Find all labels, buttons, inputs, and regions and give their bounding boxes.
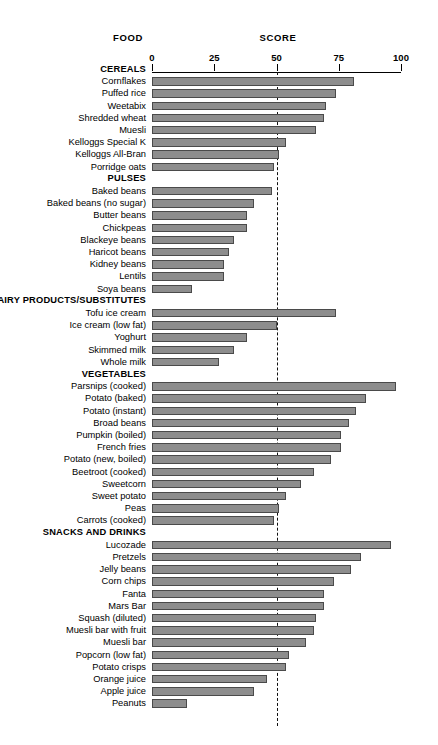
bar-label: Muesli [119,125,146,135]
chart-row: Muesli [0,125,438,137]
category-header-row: PULSES [0,173,438,185]
bar [152,480,301,488]
chart-row: Potato (new, boiled) [0,454,438,466]
bar [152,150,279,158]
bar-label: Apple juice [101,686,146,696]
bar [152,663,286,671]
bar [152,224,247,232]
bar [152,614,316,622]
chart-row: Peanuts [0,698,438,710]
chart-row: French fries [0,442,438,454]
bar [152,419,349,427]
bar-label: Corn chips [102,576,146,586]
bar-label: Kelloggs Special K [68,137,146,147]
bar-label: Beetroot (cooked) [72,467,146,477]
x-tick-label-50: 50 [262,52,292,63]
chart-row: Muesli bar with fruit [0,625,438,637]
chart-row: Broad beans [0,417,438,429]
bar [152,638,306,646]
bar-label: Potato (baked) [85,393,146,403]
chart-row: Apple juice [0,686,438,698]
bar [152,138,286,146]
chart-row: Whole milk [0,356,438,368]
bar [152,455,331,463]
bar [152,260,224,268]
bar-label: French fries [97,442,146,452]
chart-row: Blackeye beans [0,234,438,246]
chart-row: Shredded wheat [0,112,438,124]
bar [152,407,356,415]
chart-row: Fanta [0,588,438,600]
bar-label: Popcorn (low fat) [76,650,146,660]
chart-row: Potato (instant) [0,405,438,417]
bar [152,102,326,110]
chart-row: Weetabix [0,100,438,112]
bar [152,516,274,524]
bar [152,553,361,561]
chart-row: Cornflakes [0,76,438,88]
bar [152,590,324,598]
bar [152,492,286,500]
bar [152,626,314,634]
bar [152,394,366,402]
bar-label: Chickpeas [103,223,146,233]
chart-row: Jelly beans [0,564,438,576]
bar-label: Weetabix [107,101,146,111]
bar [152,309,336,317]
bar-label: Kelloggs All-Bran [75,149,146,159]
bar [152,699,187,707]
bar [152,89,336,97]
chart-row: Carrots (cooked) [0,515,438,527]
chart-row: Porridge oats [0,161,438,173]
chart-row: Pumpkin (boiled) [0,430,438,442]
bar [152,577,334,585]
bar-label: Muesli bar [103,637,146,647]
category-label: DAIRY PRODUCTS/SUBSTITUTES [0,295,146,305]
bar [152,565,351,573]
chart-row: Beetroot (cooked) [0,466,438,478]
bar-label: Haricot beans [89,247,146,257]
bar [152,602,324,610]
glycemic-index-bar-chart: FOOD SCORE 0255075100 CEREALSCornflakesP… [0,0,438,745]
bar [152,285,192,293]
bar [152,248,229,256]
bar-label: Peas [125,503,146,513]
bar-label: Carrots (cooked) [77,515,146,525]
bar-label: Ice cream (low fat) [70,320,146,330]
chart-row: Potato (baked) [0,393,438,405]
food-column-header: FOOD [105,32,151,43]
bar [152,163,274,171]
chart-row: Corn chips [0,576,438,588]
x-tick-label-75: 75 [324,52,354,63]
chart-row: Yoghurt [0,332,438,344]
bar-label: Potato crisps [92,662,146,672]
bar [152,675,267,683]
bar [152,333,247,341]
bar-label: Blackeye beans [80,235,146,245]
bar-label: Skimmed milk [88,345,146,355]
chart-row: Sweet potato [0,491,438,503]
chart-row: Baked beans [0,186,438,198]
bar-label: Porridge oats [91,162,146,172]
bar-label: Potato (new, boiled) [64,454,146,464]
chart-row: Kidney beans [0,259,438,271]
bar-label: Whole milk [101,357,146,367]
bar [152,114,324,122]
bar-label: Kidney beans [90,259,146,269]
bar-label: Pumpkin (boiled) [76,430,146,440]
bar [152,126,316,134]
chart-row: Pretzels [0,552,438,564]
bar [152,504,279,512]
bar-label: Squash (diluted) [78,613,146,623]
chart-row: Muesli bar [0,637,438,649]
bar-label: Soya beans [97,284,146,294]
chart-row: Skimmed milk [0,344,438,356]
category-header-row: CEREALS [0,64,438,76]
category-label: SNACKS AND DRINKS [43,527,146,537]
bar [152,199,254,207]
bar [152,272,224,280]
chart-row: Potato crisps [0,661,438,673]
chart-row: Puffed rice [0,88,438,100]
chart-row: Kelloggs Special K [0,137,438,149]
bar-label: Sweet potato [92,491,146,501]
